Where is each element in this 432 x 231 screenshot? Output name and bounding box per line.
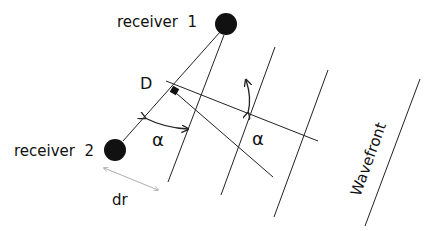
wavefront-line-1 <box>168 35 224 182</box>
receiver-1-label: receiver 1 <box>117 13 197 31</box>
propagation-line <box>166 81 318 141</box>
receiver-2-label: receiver 2 <box>14 142 94 160</box>
alpha-right-label: α <box>252 128 264 149</box>
baseline-line <box>123 32 220 141</box>
point-d-label: D <box>140 74 152 93</box>
dr-arrow <box>104 168 158 190</box>
wavefront-line-3 <box>274 70 328 217</box>
receiver-1-dot <box>215 13 237 35</box>
alpha-arc-right <box>246 80 250 113</box>
wavefront-label: Wavefront <box>347 120 390 198</box>
alpha-left-label: α <box>152 129 164 150</box>
alpha-arc-left <box>145 118 188 129</box>
dr-label: dr <box>112 191 129 209</box>
receiver-2-dot <box>104 139 126 161</box>
wavefront-diagram: receiver 1 receiver 2 D α α dr Wavefront <box>0 0 432 231</box>
